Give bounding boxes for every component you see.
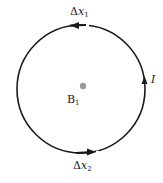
current-loop-diagram <box>0 0 163 183</box>
field-point-dot <box>80 83 86 89</box>
field-label: B1 <box>67 94 80 107</box>
current-arrow-icon <box>142 76 148 84</box>
current-loop <box>17 25 145 153</box>
dx2-segment <box>76 152 88 153</box>
dx1-label: Δx1 <box>70 6 89 19</box>
current-label: I <box>151 74 155 85</box>
dx1-segment <box>70 25 86 26</box>
dx2-arrow-icon <box>87 149 96 156</box>
dx2-label: Δx2 <box>73 160 92 173</box>
